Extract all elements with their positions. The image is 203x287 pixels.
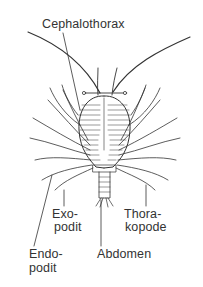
- label-endopodit-line1: Endo-: [29, 248, 63, 261]
- label-thorakopode-line2: kopode: [125, 221, 167, 234]
- right-antenna: [113, 37, 190, 92]
- left-antenna: [28, 32, 100, 93]
- leader-endopodit: [34, 175, 52, 246]
- label-abdomen: Abdomen: [97, 248, 151, 261]
- leader-cephalothorax: [63, 33, 80, 110]
- organism-drawing: [0, 0, 203, 287]
- label-endopodit-line2: podit: [29, 262, 57, 275]
- crustacean-diagram: Cephalothorax Exo- podit Thora- kopode E…: [0, 0, 203, 287]
- label-cephalothorax: Cephalothorax: [42, 18, 125, 31]
- label-exopodit-line2: podit: [54, 221, 82, 234]
